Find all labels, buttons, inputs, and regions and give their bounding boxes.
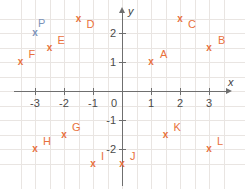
x-axis-label: x xyxy=(228,77,234,88)
gridline-vertical xyxy=(108,0,109,189)
x-axis-arrow-icon xyxy=(226,88,232,94)
x-axis xyxy=(14,91,226,92)
y-axis-label: y xyxy=(128,6,134,17)
y-axis-arrow-icon xyxy=(119,7,125,13)
data-point-label: C xyxy=(188,19,196,30)
y-axis-tick xyxy=(119,62,126,63)
x-axis-tick-label: 3 xyxy=(206,98,212,109)
x-axis-tick-label: -1 xyxy=(88,98,98,109)
data-point-label: E xyxy=(58,35,65,46)
y-axis-tick xyxy=(119,33,126,34)
data-point-label: D xyxy=(87,19,95,30)
gridline-vertical xyxy=(224,0,225,189)
x-axis-tick-label: 0 xyxy=(111,98,117,109)
data-point-label: A xyxy=(160,49,167,60)
y-axis-tick-label: -2 xyxy=(106,144,116,155)
x-axis-tick xyxy=(35,88,36,95)
data-point-label: L xyxy=(217,136,223,147)
data-point-label: G xyxy=(72,122,81,133)
x-axis-tick xyxy=(180,88,181,95)
gridline-vertical xyxy=(50,0,51,189)
x-axis-tick xyxy=(64,88,65,95)
gridline-vertical xyxy=(21,0,22,189)
coordinate-plane: -3-2-1012321-1-2 xAxBxCxDxExFxGxHxIxJxKx… xyxy=(0,0,245,189)
gridline-vertical xyxy=(79,0,80,189)
y-axis-tick-label: 1 xyxy=(110,57,116,68)
y-axis-tick-label: 2 xyxy=(110,28,116,39)
data-point-label: B xyxy=(218,35,225,46)
data-point-label: K xyxy=(174,122,181,133)
y-axis xyxy=(122,13,123,186)
x-axis-tick xyxy=(151,88,152,95)
y-axis-tick-label: -1 xyxy=(106,115,116,126)
data-point-label: I xyxy=(101,151,104,162)
x-axis-tick-label: -2 xyxy=(59,98,69,109)
x-axis-tick xyxy=(93,88,94,95)
x-axis-tick xyxy=(209,88,210,95)
data-point-label: H xyxy=(43,136,51,147)
data-point-label: P xyxy=(38,18,45,29)
data-point-label: F xyxy=(29,49,36,60)
y-axis-tick xyxy=(119,149,126,150)
gridline-vertical xyxy=(166,0,167,189)
x-axis-tick-label: -3 xyxy=(30,98,40,109)
y-axis-tick xyxy=(119,120,126,121)
data-point-label: J xyxy=(130,151,136,162)
gridline-vertical xyxy=(137,0,138,189)
x-axis-tick-label: 2 xyxy=(177,98,183,109)
x-axis-tick-label: 1 xyxy=(148,98,154,109)
